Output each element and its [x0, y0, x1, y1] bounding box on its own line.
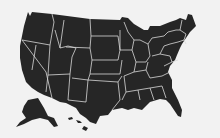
us-map — [0, 0, 220, 138]
contiguous-us — [20, 12, 196, 124]
hawaii — [68, 117, 88, 131]
alaska — [16, 98, 58, 127]
